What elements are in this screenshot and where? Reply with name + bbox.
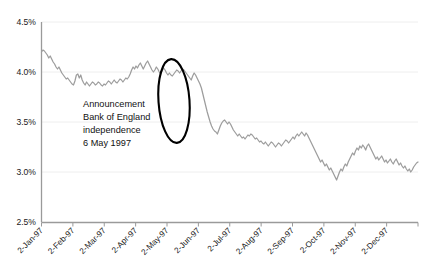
y-tick-label: 2.5%	[16, 217, 36, 227]
annotation-line-2: Bank of England	[83, 112, 150, 122]
chart-container: 4.5%4.0%3.5%3.0%2.5% Announcement Bank o…	[0, 0, 424, 276]
annotation-line-1: Announcement	[83, 99, 145, 109]
y-tick-label: 4.0%	[16, 67, 36, 77]
line-chart: 4.5%4.0%3.5%3.0%2.5% Announcement Bank o…	[0, 0, 424, 276]
y-tick-label: 4.5%	[16, 17, 36, 27]
annotation-line-4: 6 May 1997	[83, 138, 131, 148]
annotation-line-3: independence	[83, 125, 141, 135]
y-tick-label: 3.5%	[16, 117, 36, 127]
y-tick-label: 3.0%	[16, 167, 36, 177]
